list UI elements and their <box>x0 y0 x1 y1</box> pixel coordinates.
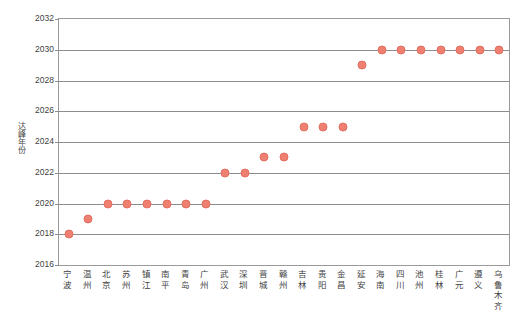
y-axis-title: 达峰年份 <box>10 108 24 168</box>
x-axis-tick-label: 四川 <box>394 269 407 290</box>
y-axis-tick-label: 2022 <box>24 167 54 177</box>
y-axis-tick-mark <box>55 204 59 205</box>
x-axis-tick-label: 青岛 <box>179 269 192 290</box>
data-point[interactable] <box>416 45 425 54</box>
y-axis-tick-label: 2030 <box>24 44 54 54</box>
scatter-chart: 达峰年份 20162018202020222024202620282030203… <box>0 0 519 317</box>
data-point[interactable] <box>319 122 328 131</box>
y-axis-tick-mark <box>55 50 59 51</box>
data-point[interactable] <box>260 153 269 162</box>
y-axis-tick-mark <box>55 142 59 143</box>
y-axis-tick-label: 2016 <box>24 259 54 269</box>
x-axis-tick-label: 镇江 <box>140 269 153 290</box>
data-point[interactable] <box>397 45 406 54</box>
x-axis-tick-label: 延安 <box>355 269 368 290</box>
gridline <box>59 234 509 235</box>
gridline <box>59 173 509 174</box>
data-point[interactable] <box>240 168 249 177</box>
data-point[interactable] <box>162 199 171 208</box>
gridline <box>59 81 509 82</box>
x-axis-tick-label: 苏州 <box>120 269 133 290</box>
y-axis-tick-label: 2024 <box>24 136 54 146</box>
data-point[interactable] <box>338 122 347 131</box>
data-point[interactable] <box>182 199 191 208</box>
x-axis-tick-label: 乌鲁木齐 <box>492 269 505 311</box>
x-axis-tick-label: 桂林 <box>433 269 446 290</box>
y-axis-tick-label: 2020 <box>24 198 54 208</box>
gridline <box>59 111 509 112</box>
x-axis-tick-label: 宁波 <box>61 269 74 290</box>
x-axis-tick-label: 遵义 <box>472 269 485 290</box>
y-axis-tick-mark <box>55 234 59 235</box>
gridline <box>59 142 509 143</box>
x-axis-tick-label: 温州 <box>81 269 94 290</box>
y-axis-tick-mark <box>55 19 59 20</box>
data-point[interactable] <box>475 45 484 54</box>
x-axis-tick-label: 吉林 <box>296 269 309 290</box>
x-axis-tick-label: 池州 <box>413 269 426 290</box>
x-axis-tick-label: 赣州 <box>277 269 290 290</box>
y-axis-tick-label: 2028 <box>24 75 54 85</box>
data-point[interactable] <box>123 199 132 208</box>
y-axis-tick-label: 2018 <box>24 228 54 238</box>
data-point[interactable] <box>201 199 210 208</box>
data-point[interactable] <box>103 199 112 208</box>
data-point[interactable] <box>495 45 504 54</box>
data-point[interactable] <box>221 168 230 177</box>
y-axis-tick-label: 2026 <box>24 105 54 115</box>
x-axis-tick-labels: 宁波温州北京苏州镇江南平青岛广州武汉深圳晋城赣州吉林贵阳金昌延安海南四川池州桂林… <box>58 269 510 317</box>
y-axis-tick-labels: 201620182020202220242026202820302032 <box>24 0 54 317</box>
x-axis-tick-label: 广元 <box>453 269 466 290</box>
y-axis-tick-mark <box>55 111 59 112</box>
x-axis-tick-label: 金昌 <box>335 269 348 290</box>
data-point[interactable] <box>436 45 445 54</box>
data-point[interactable] <box>143 199 152 208</box>
data-point[interactable] <box>84 214 93 223</box>
data-point[interactable] <box>377 45 386 54</box>
y-axis-tick-label: 2032 <box>24 13 54 23</box>
x-axis-tick-label: 贵阳 <box>316 269 329 290</box>
x-axis-tick-label: 南平 <box>159 269 172 290</box>
data-point[interactable] <box>64 230 73 239</box>
y-axis-tick-mark <box>55 173 59 174</box>
x-axis-tick-label: 晋城 <box>257 269 270 290</box>
y-axis-tick-mark <box>55 81 59 82</box>
y-axis-tick-mark <box>55 265 59 266</box>
x-axis-tick-label: 武汉 <box>218 269 231 290</box>
data-point[interactable] <box>280 153 289 162</box>
x-axis-tick-label: 北京 <box>100 269 113 290</box>
data-point[interactable] <box>456 45 465 54</box>
x-axis-tick-label: 深圳 <box>237 269 250 290</box>
x-axis-tick-label: 广州 <box>198 269 211 290</box>
plot-area <box>58 18 510 266</box>
data-point[interactable] <box>299 122 308 131</box>
x-axis-tick-label: 海南 <box>374 269 387 290</box>
data-point[interactable] <box>358 61 367 70</box>
